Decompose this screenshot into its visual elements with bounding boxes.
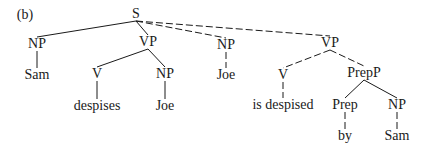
tree-node-prep: Prep	[332, 98, 358, 112]
tree-edge-solid	[345, 80, 364, 98]
panel-label: (b)	[17, 8, 33, 22]
tree-node-v2: V	[278, 68, 288, 82]
tree-node-joe2: Joe	[217, 68, 236, 82]
tree-node-s: S	[132, 7, 140, 21]
tree-node-joe1: Joe	[156, 99, 175, 113]
tree-node-vp1: VP	[139, 35, 157, 49]
tree-node-np3: NP	[217, 38, 235, 52]
tree-node-np4: NP	[388, 98, 406, 112]
tree-node-sam1: Sam	[25, 68, 50, 82]
tree-node-vp2: VP	[321, 36, 339, 50]
tree-edge-dashed	[283, 50, 330, 68]
tree-node-despises: despises	[74, 99, 121, 113]
tree-edge-solid	[364, 80, 397, 98]
tree-node-isdesp: is despised	[252, 98, 313, 112]
tree-node-np2: NP	[156, 67, 174, 81]
tree-node-v1: V	[92, 67, 102, 81]
tree-edge-dashed	[136, 21, 330, 36]
tree-edge-dashed	[330, 50, 364, 66]
tree-edge-solid	[97, 49, 148, 67]
tree-node-np1: NP	[28, 37, 46, 51]
tree-node-sam2: Sam	[385, 129, 410, 143]
tree-node-by: by	[338, 129, 352, 143]
syntax-tree-diagram: (b) SNPSamVPVNPdespisesJoeNPJoeVPVPrepPi…	[0, 0, 429, 154]
tree-node-prepp: PrepP	[347, 66, 380, 80]
tree-edge-solid	[148, 49, 165, 67]
tree-edge-solid	[37, 21, 136, 37]
